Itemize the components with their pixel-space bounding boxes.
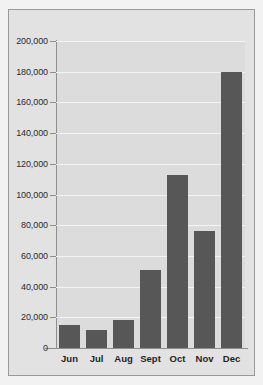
y-axis-tick-label: 80,000 bbox=[21, 220, 48, 230]
y-axis-tick-label: 200,000 bbox=[16, 36, 48, 46]
y-axis-tick-label: 120,000 bbox=[16, 159, 48, 169]
x-axis-label-sept: Sept bbox=[140, 353, 161, 364]
x-axis-label-jul: Jul bbox=[90, 353, 104, 364]
y-axis-tick-label: 100,000 bbox=[16, 190, 48, 200]
x-axis-label-nov: Nov bbox=[196, 353, 214, 364]
y-axis-tick-label: 60,000 bbox=[21, 251, 48, 261]
x-axis-label-aug: Aug bbox=[114, 353, 132, 364]
y-axis-tick-label: 180,000 bbox=[16, 67, 48, 77]
x-axis-label-jun: Jun bbox=[61, 353, 78, 364]
x-axis-label-oct: Oct bbox=[170, 353, 186, 364]
y-axis-tick-label: 40,000 bbox=[21, 282, 48, 292]
x-axis-label-dec: Dec bbox=[223, 353, 240, 364]
y-axis-labels: 020,00040,00060,00080,000100,000120,0001… bbox=[0, 0, 48, 385]
bar-chart-figure: 020,00040,00060,00080,000100,000120,0001… bbox=[0, 0, 263, 385]
y-axis-tick-label: 0 bbox=[43, 343, 48, 353]
y-axis-tick-label: 160,000 bbox=[16, 97, 48, 107]
y-axis-tick-label: 20,000 bbox=[21, 312, 48, 322]
y-axis-tick-label: 140,000 bbox=[16, 128, 48, 138]
x-axis-labels: JunJulAugSeptOctNovDec bbox=[56, 0, 245, 385]
